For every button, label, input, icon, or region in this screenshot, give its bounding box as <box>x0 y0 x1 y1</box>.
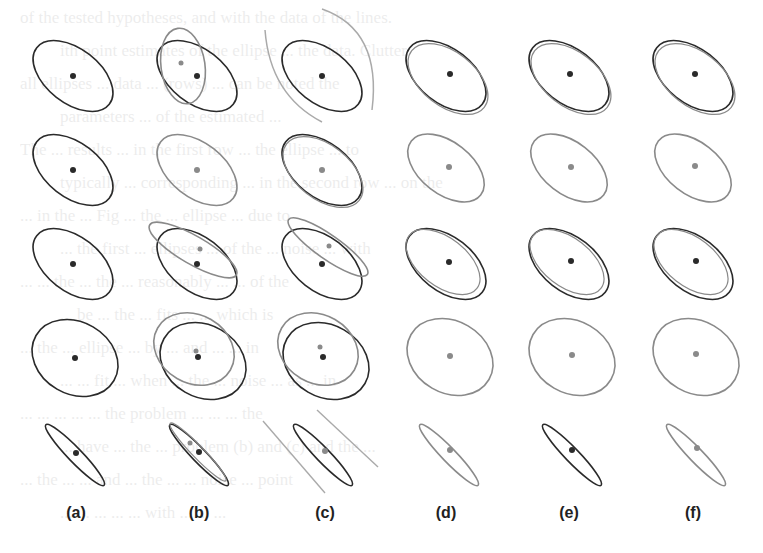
ellipse-outline <box>265 299 372 400</box>
center-point <box>447 353 453 359</box>
center-point <box>188 441 193 446</box>
center-point <box>319 167 325 173</box>
center-point <box>70 167 76 173</box>
ellipse-outline <box>642 29 748 128</box>
ellipse-outline <box>516 214 622 313</box>
center-point <box>320 354 326 360</box>
ellipse-figure <box>0 0 763 553</box>
center-point <box>319 73 325 79</box>
center-point <box>318 345 323 350</box>
center-point <box>70 261 76 267</box>
center-point <box>70 73 76 79</box>
center-point <box>319 261 325 267</box>
ellipse-outline <box>415 420 483 490</box>
center-point <box>194 73 200 79</box>
ellipse-outline <box>538 420 606 490</box>
center-point <box>692 163 698 169</box>
center-point <box>196 449 202 455</box>
center-point <box>446 259 452 265</box>
center-point <box>569 352 575 358</box>
arc-outlier <box>265 30 322 122</box>
column-label-d: (d) <box>416 504 476 522</box>
ellipse-outline <box>393 214 499 313</box>
center-point <box>322 448 328 454</box>
center-point <box>446 164 452 170</box>
center-point <box>194 261 200 267</box>
ellipse-outline <box>289 420 357 490</box>
center-point <box>567 71 573 77</box>
ellipse-outline <box>640 214 746 313</box>
center-point <box>327 244 332 249</box>
center-point <box>569 447 575 453</box>
arc-outlier <box>322 9 373 110</box>
ellipse-outline <box>393 26 499 125</box>
center-point <box>568 258 574 264</box>
column-label-c: (c) <box>295 504 355 522</box>
column-label-b: (b) <box>169 504 229 522</box>
line-outlier <box>317 410 378 467</box>
ellipse-outline <box>146 307 260 414</box>
ellipse-outline <box>662 420 730 490</box>
center-point <box>194 349 199 354</box>
center-point <box>693 258 699 264</box>
center-point <box>198 247 203 252</box>
column-label-a: (a) <box>46 504 106 522</box>
ellipse-outline <box>395 29 501 128</box>
center-point <box>447 71 453 77</box>
ellipse-outline <box>269 307 383 414</box>
center-point <box>194 167 200 173</box>
ellipse-outline <box>395 120 496 215</box>
center-point <box>447 447 453 453</box>
center-point <box>195 354 201 360</box>
column-label-e: (e) <box>539 504 599 522</box>
column-label-f: (f) <box>663 504 723 522</box>
center-point <box>179 61 184 66</box>
center-point <box>73 450 79 456</box>
center-point <box>568 164 574 170</box>
ellipse-outline <box>156 25 210 106</box>
center-point <box>72 355 78 361</box>
ellipse-outline <box>518 29 624 128</box>
center-point <box>694 445 700 451</box>
center-point <box>692 71 698 77</box>
ellipse-outline <box>141 299 248 400</box>
center-point <box>693 351 699 357</box>
